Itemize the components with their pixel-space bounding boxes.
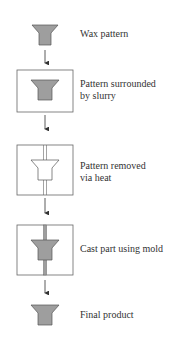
step-label-removed: Pattern removed via heat	[80, 160, 146, 184]
slurry-box	[17, 70, 73, 112]
empty-mold-box	[17, 145, 73, 195]
slurry-line-2: by slurry	[80, 90, 156, 102]
slurry-line-1: Pattern surrounded	[80, 78, 156, 90]
step-label-wax-pattern: Wax pattern	[80, 28, 128, 40]
step-label-slurry: Pattern surrounded by slurry	[80, 78, 156, 102]
removed-line-2: via heat	[80, 172, 146, 184]
step-label-cast: Cast part using mold	[80, 243, 163, 255]
final-product-shape	[31, 305, 59, 325]
cast-mold-box	[17, 225, 73, 275]
removed-line-1: Pattern removed	[80, 160, 146, 172]
step-label-final: Final product	[80, 309, 134, 321]
wax-pattern-shape	[32, 25, 58, 45]
